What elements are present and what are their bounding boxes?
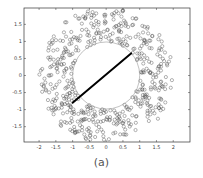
data-point: [86, 12, 89, 15]
data-point: [79, 34, 82, 37]
data-point: [44, 81, 47, 84]
data-point: [74, 49, 77, 52]
data-point: [86, 10, 89, 13]
data-point: [48, 58, 51, 61]
data-point: [152, 76, 155, 79]
data-point: [75, 45, 78, 48]
data-point: [59, 123, 62, 126]
data-point: [155, 75, 158, 78]
data-point: [142, 62, 145, 65]
data-point: [157, 103, 160, 106]
data-point: [157, 38, 160, 41]
data-point: [141, 31, 144, 34]
line-segment: [73, 53, 132, 102]
y-tick-label: 0.5: [14, 55, 22, 61]
x-tick-label: -1.5: [51, 144, 61, 150]
data-point: [160, 40, 163, 43]
data-point: [161, 45, 164, 48]
data-point: [81, 129, 84, 132]
data-point: [143, 25, 146, 28]
data-point: [107, 138, 110, 141]
y-tick-label: -1: [17, 106, 22, 112]
data-point: [70, 42, 73, 45]
data-point: [52, 63, 55, 66]
x-tick-label: 2: [172, 144, 175, 150]
data-point: [56, 48, 59, 51]
data-point: [66, 79, 69, 82]
data-point: [148, 105, 151, 108]
data-point: [104, 35, 107, 38]
data-point: [52, 49, 55, 52]
data-point: [139, 37, 142, 40]
data-point: [70, 30, 73, 33]
y-tick-label: 1: [19, 38, 22, 44]
data-point: [68, 38, 71, 41]
data-point: [137, 33, 140, 36]
data-point: [80, 28, 83, 31]
data-point: [89, 131, 92, 134]
data-point: [73, 125, 76, 128]
data-point: [114, 131, 117, 134]
data-point: [122, 38, 125, 41]
data-point: [70, 116, 73, 119]
data-point: [123, 114, 126, 117]
data-point: [94, 135, 97, 138]
data-point: [139, 88, 142, 91]
data-point: [119, 133, 122, 136]
y-axis-ticks: 1.510.50-0.5-1-1.5: [12, 21, 190, 129]
data-point: [170, 79, 173, 82]
data-point: [55, 92, 58, 95]
data-point: [151, 80, 154, 83]
data-point: [74, 14, 77, 17]
data-point: [66, 111, 69, 114]
data-point: [130, 106, 133, 109]
data-point: [85, 28, 88, 31]
data-point: [80, 22, 83, 25]
data-point: [131, 114, 134, 117]
data-point: [125, 35, 128, 38]
data-point: [146, 57, 149, 60]
data-point: [84, 137, 87, 140]
x-tick-label: -2: [37, 144, 42, 150]
data-point: [156, 117, 159, 120]
data-point: [47, 107, 50, 110]
data-point: [129, 36, 132, 39]
data-point: [102, 135, 105, 138]
data-point: [149, 88, 152, 91]
data-point: [64, 35, 67, 38]
data-point: [120, 15, 123, 18]
scatter-chart: -2-1.5-1-0.500.511.52 1.510.50-0.5-1-1.5: [0, 0, 203, 150]
data-point: [154, 73, 157, 76]
data-point: [52, 113, 55, 116]
data-point: [134, 128, 137, 131]
data-point: [72, 36, 75, 39]
data-point: [149, 113, 152, 116]
x-tick-label: 0.5: [119, 144, 127, 150]
data-point: [145, 67, 148, 70]
data-point: [159, 69, 162, 72]
data-point: [51, 87, 54, 90]
data-point: [71, 38, 74, 41]
data-point: [164, 83, 167, 86]
data-point: [49, 56, 52, 59]
data-point: [150, 47, 153, 50]
data-point: [102, 138, 105, 141]
data-point: [154, 87, 157, 90]
data-point: [60, 106, 63, 109]
data-point: [164, 75, 167, 78]
data-point: [91, 11, 94, 14]
data-point: [78, 124, 81, 127]
data-point: [158, 33, 161, 36]
data-point: [122, 125, 125, 128]
data-point: [124, 128, 127, 131]
data-point: [134, 121, 137, 124]
data-point: [52, 35, 55, 38]
data-point: [90, 22, 93, 25]
data-point: [89, 138, 92, 141]
data-point: [113, 109, 116, 112]
data-point: [146, 115, 149, 118]
data-point: [169, 86, 172, 89]
x-tick-label: 0: [105, 144, 108, 150]
x-tick-label: 1.5: [152, 144, 160, 150]
data-point: [87, 130, 90, 133]
